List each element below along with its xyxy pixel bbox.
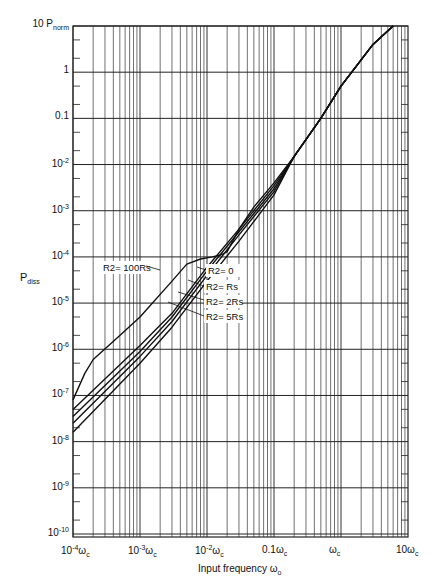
curve-0 bbox=[73, 26, 393, 400]
x-tick-label: 10ωc bbox=[396, 544, 418, 557]
y-tick-label: 10-2 bbox=[52, 157, 69, 169]
x-tick-label: 10-2ωc bbox=[195, 544, 224, 558]
y-tick-label: 10-5 bbox=[52, 295, 69, 307]
y-tick-label: 1 bbox=[63, 64, 69, 75]
y-tick-label: 10 Pnorm bbox=[32, 18, 69, 31]
curve-1 bbox=[73, 26, 393, 409]
x-tick-label: 10-4ωc bbox=[61, 544, 90, 558]
annotation-label: R2= 0 bbox=[208, 265, 234, 276]
x-axis-label: Input frequency ωo bbox=[198, 563, 281, 576]
y-tick-label: 0.1 bbox=[55, 110, 69, 121]
y-tick-label: 10-4 bbox=[52, 249, 69, 261]
log-log-chart: R2= 100RsR2= 0R2= RsR2= 2RsR2= 5Rs bbox=[0, 0, 442, 585]
annotation-label: R2= Rs bbox=[206, 281, 238, 292]
y-tick-label: 10-10 bbox=[48, 526, 69, 538]
curve-2 bbox=[73, 26, 393, 417]
y-tick-label: 10-3 bbox=[52, 203, 69, 215]
x-axis-label-sub: o bbox=[278, 569, 282, 576]
curve-4 bbox=[73, 26, 393, 432]
x-axis-label-main: Input frequency ω bbox=[198, 563, 278, 574]
y-axis-label-sub: diss bbox=[27, 278, 39, 285]
y-axis-label: Pdiss bbox=[20, 271, 40, 285]
y-tick-label: 10-6 bbox=[52, 341, 69, 353]
curves bbox=[73, 26, 393, 432]
y-tick-label: 10-7 bbox=[52, 387, 69, 399]
annotation-label: R2= 2Rs bbox=[206, 296, 243, 307]
y-tick-label: 10-9 bbox=[52, 480, 69, 492]
x-tick-label: 0.1ωc bbox=[262, 544, 287, 557]
annotation-label: R2= 5Rs bbox=[206, 311, 243, 322]
annotation-label: R2= 100Rs bbox=[103, 262, 151, 273]
x-tick-label: 10-3ωc bbox=[128, 544, 157, 558]
x-tick-label: ωc bbox=[329, 544, 340, 557]
y-tick-label: 10-8 bbox=[52, 434, 69, 446]
